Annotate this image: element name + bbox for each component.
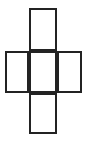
left-cell-face bbox=[5, 51, 29, 93]
figure-canvas bbox=[0, 0, 95, 145]
center-cell-face bbox=[29, 51, 57, 93]
right-cell-face bbox=[57, 51, 82, 93]
bottom-cell-face bbox=[29, 93, 57, 134]
cross-net-diagram bbox=[0, 0, 95, 145]
top-cell-face bbox=[29, 8, 57, 51]
